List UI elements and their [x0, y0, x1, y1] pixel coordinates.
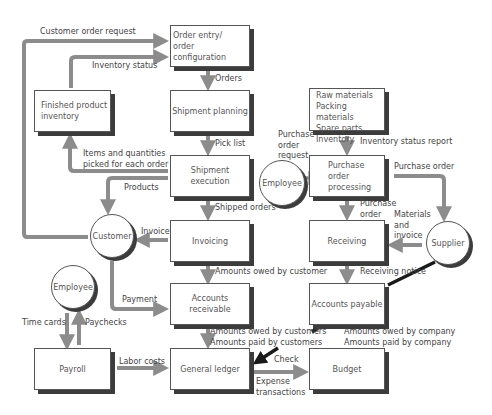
- label-orders: Orders: [215, 74, 242, 85]
- node-accounts-receivable: Accounts receivable: [170, 283, 250, 325]
- node-po-processing-line3: processing: [328, 182, 371, 193]
- node-materials-line2: Packing materials: [316, 101, 384, 123]
- label-po-to-receiving-line2: order: [360, 210, 396, 221]
- node-order-entry-line2: order configuration: [173, 41, 249, 63]
- node-supplier: Supplier: [426, 221, 470, 265]
- label-materials-and-invoice: Materials and invoice: [394, 210, 431, 242]
- node-general-ledger: General ledger: [170, 348, 250, 390]
- label-amounts-owed-by-company: Amounts owed by company: [344, 327, 455, 338]
- node-order-entry-line1: Order entry/: [173, 30, 249, 41]
- label-po-request-line3: request: [278, 151, 314, 162]
- node-employee-mid-label: Employee: [262, 179, 302, 188]
- node-invoicing: Invoicing: [170, 220, 250, 262]
- node-payroll: Payroll: [34, 348, 111, 390]
- label-inventory-status-report: Inventory status report: [360, 137, 452, 148]
- label-products: Products: [124, 183, 159, 194]
- label-po-request-line1: Purchase: [278, 130, 314, 141]
- label-invoice: Invoice: [141, 227, 170, 238]
- node-receiving: Receiving: [309, 220, 385, 262]
- node-supplier-label: Supplier: [432, 239, 465, 248]
- node-accounts-payable: Accounts payable: [309, 283, 385, 325]
- label-purchase-order-to-supplier: Purchase order: [394, 162, 454, 173]
- label-expense-transactions: Expense transactions: [256, 377, 305, 398]
- node-invoicing-label: Invoicing: [192, 236, 228, 247]
- node-payroll-label: Payroll: [59, 364, 86, 375]
- label-amounts-paid-by-customers: Amounts paid by customers: [210, 338, 326, 349]
- node-finished-product-inventory: Finished product inventory: [34, 90, 111, 132]
- label-payment: Payment: [122, 295, 157, 306]
- label-po-to-receiving-line1: Purchase: [360, 199, 396, 210]
- node-shipment-execution-label: Shipment execution: [171, 165, 249, 187]
- node-shipment-planning: Shipment planning: [170, 90, 250, 132]
- node-materials-inventory: Raw materials Packing materials Spare pa…: [309, 88, 385, 131]
- label-purchase-order-to-receiving: Purchase order: [360, 199, 396, 220]
- node-shipment-planning-label: Shipment planning: [172, 106, 248, 117]
- node-accounts-payable-label: Accounts payable: [312, 299, 383, 310]
- node-budget: Budget: [309, 348, 385, 390]
- node-receiving-label: Receiving: [328, 236, 367, 247]
- node-finished-product-line1: Finished product: [41, 100, 107, 111]
- label-amounts-owed-by-customers: Amounts owed by customers: [210, 327, 326, 338]
- label-items-picked-line2: picked for each order: [83, 160, 168, 171]
- label-amounts-owed-by-customer: Amounts owed by customer: [215, 267, 327, 278]
- label-paychecks: Paychecks: [85, 318, 127, 329]
- node-accounts-receivable-line2: receivable: [189, 304, 230, 315]
- label-expense-transactions-line1: Expense: [256, 377, 305, 388]
- label-expense-transactions-line2: transactions: [256, 388, 305, 399]
- label-materials-line3: invoice: [394, 231, 431, 242]
- label-shipped-orders: Shipped orders: [215, 203, 276, 214]
- label-items-picked-line1: Items and quantities: [83, 149, 168, 160]
- label-time-cards: Time cards: [22, 318, 66, 329]
- node-shipment-execution: Shipment execution: [170, 155, 250, 197]
- node-employee-mid: Employee: [259, 160, 305, 206]
- label-amounts-company: Amounts owed by company Amounts paid by …: [344, 327, 455, 348]
- node-customer-label: Customer: [93, 232, 132, 241]
- node-employee-left-label: Employee: [53, 283, 93, 292]
- node-budget-label: Budget: [333, 364, 362, 375]
- label-labor-costs: Labor costs: [119, 357, 165, 368]
- label-amounts-paid-by-company: Amounts paid by company: [344, 338, 455, 349]
- label-purchase-order-request: Purchase order request: [278, 130, 314, 162]
- node-materials-line3: Spare parts: [316, 123, 384, 134]
- label-receiving-notice: Receiving notice: [360, 267, 426, 278]
- node-customer: Customer: [90, 214, 134, 258]
- label-inventory-status: Inventory status: [92, 61, 157, 72]
- label-pick-list: Pick list: [215, 139, 245, 150]
- label-items-picked: Items and quantities picked for each ord…: [83, 149, 168, 170]
- node-employee-left: Employee: [51, 265, 95, 309]
- label-customer-order-request: Customer order request: [40, 27, 136, 38]
- node-po-processing-line2: order: [328, 171, 371, 182]
- label-materials-line1: Materials: [394, 210, 431, 221]
- label-materials-line2: and: [394, 221, 431, 232]
- node-materials-line1: Raw materials: [316, 90, 384, 101]
- label-check: Check: [274, 355, 299, 366]
- node-order-entry: Order entry/ order configuration: [170, 25, 250, 67]
- label-amounts-customers: Amounts owed by customers Amounts paid b…: [210, 327, 326, 348]
- node-purchase-order-processing: Purchase order processing: [309, 155, 385, 197]
- node-accounts-receivable-line1: Accounts: [189, 293, 230, 304]
- node-general-ledger-label: General ledger: [180, 364, 240, 375]
- label-po-request-line2: order: [278, 141, 314, 152]
- node-po-processing-line1: Purchase: [328, 160, 371, 171]
- node-finished-product-line2: inventory: [41, 111, 107, 122]
